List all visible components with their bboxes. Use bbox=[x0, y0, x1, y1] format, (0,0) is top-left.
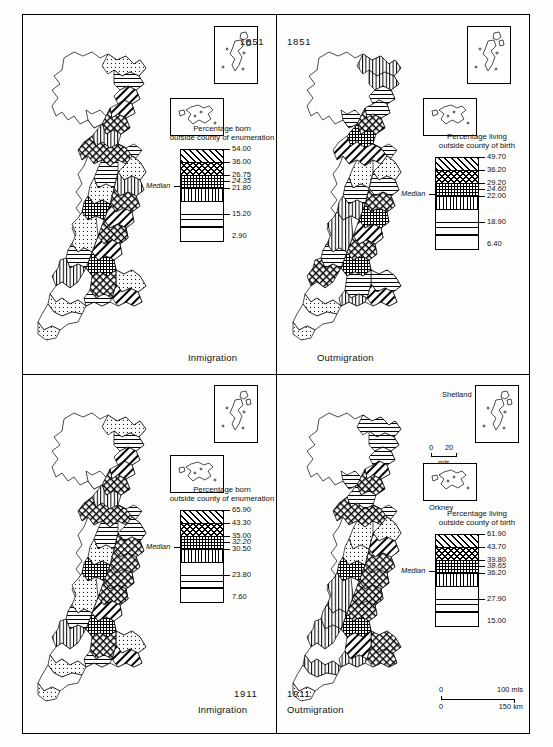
inset-orkney-tr bbox=[423, 98, 477, 136]
legend-bl: Percentage born outside county of enumer… bbox=[168, 485, 276, 602]
shetland-outline-tr bbox=[468, 27, 510, 83]
panel-caption-bl: Inmigration bbox=[198, 704, 247, 715]
legend-br: Percentage living outside county of birt… bbox=[423, 509, 531, 626]
legend-swatches-bl bbox=[180, 510, 224, 603]
legend-value-br-5: 27.90 bbox=[487, 594, 506, 603]
main-scale-miles-zero: 0 bbox=[439, 685, 443, 694]
legend-swatch-dotted-br bbox=[436, 613, 478, 626]
main-scale-miles-max: 100 mls bbox=[497, 685, 523, 694]
legend-median-label-tl: Median bbox=[146, 181, 170, 190]
shetland-outline-br bbox=[476, 386, 518, 442]
inset-scale-twenty: 20 bbox=[445, 443, 453, 452]
legend-swatch-diagonal-hatch-tl bbox=[181, 150, 223, 163]
legend-swatch-horizontal-hatch-br bbox=[436, 600, 478, 613]
legend-swatch-grid-hatch-tl bbox=[181, 176, 223, 189]
legend-value-tr-6: 6.40 bbox=[487, 239, 502, 248]
legend-swatch-dotted-tl bbox=[181, 228, 223, 241]
main-scale-bar: 0 100 mls 0 150 km bbox=[439, 685, 531, 729]
legend-swatch-checker-hatch-tr bbox=[436, 171, 478, 184]
legend-title-tr: Percentage living outside county of birt… bbox=[423, 132, 531, 151]
legend-tr: Percentage living outside county of birt… bbox=[423, 132, 531, 249]
panel-top-right-outmigration-1851: 1851 Percentage living outside county of… bbox=[277, 14, 531, 374]
legend-value-tr-0: 49.70 bbox=[487, 152, 506, 161]
panel-caption-br: Outmigration bbox=[287, 704, 344, 715]
legend-title-line2-tr: outside county of birth bbox=[423, 141, 531, 150]
legend-swatch-checker-hatch-br bbox=[436, 548, 478, 561]
legend-title-line2-bl: outside county of enumeration bbox=[168, 494, 276, 503]
legend-value-tl-1: 36.00 bbox=[232, 157, 251, 166]
inset-shetland-tl bbox=[214, 26, 258, 84]
legend-swatch-blank-tl bbox=[181, 202, 223, 215]
panel-year-br: 1911 bbox=[287, 688, 311, 699]
legend-value-tr-1: 36.20 bbox=[487, 165, 506, 174]
inset-shetland-br bbox=[475, 385, 519, 443]
legend-title-line1-bl: Percentage born bbox=[193, 485, 251, 494]
legend-swatch-diagonal-hatch-tr bbox=[436, 158, 478, 171]
legend-swatch-diagonal-hatch-bl bbox=[181, 511, 223, 524]
legend-median-label-bl: Median bbox=[146, 542, 170, 551]
panel-year-tl: 1851 bbox=[240, 36, 264, 47]
panel-caption-tr: Outmigration bbox=[317, 352, 374, 363]
legend-title-line1-tl: Percentage born bbox=[193, 124, 251, 133]
legend-value-tl-5: 15.20 bbox=[232, 209, 251, 218]
shetland-label: Shetland bbox=[442, 390, 472, 399]
legend-value-tl-4: 21.80 bbox=[232, 183, 251, 192]
legend-swatch-checker-hatch-tl bbox=[181, 163, 223, 176]
legend-swatch-diagonal-hatch-br bbox=[436, 535, 478, 548]
legend-median-label-tr: Median bbox=[401, 189, 425, 198]
legend-value-bl-5: 23.80 bbox=[232, 570, 251, 579]
legend-swatch-vertical-hatch-tr bbox=[436, 197, 478, 210]
legend-swatch-grid-hatch-bl bbox=[181, 537, 223, 550]
migration-map-figure: 1851 Percentage born outside county of e… bbox=[0, 0, 553, 747]
legend-value-tr-4: 22.00 bbox=[487, 191, 506, 200]
legend-swatches-tr bbox=[435, 157, 479, 250]
legend-swatch-grid-hatch-br bbox=[436, 561, 478, 574]
orkney-outline-br bbox=[424, 464, 476, 500]
legend-swatches-br bbox=[435, 534, 479, 627]
legend-median-label-br: Median bbox=[401, 566, 425, 575]
legend-value-br-0: 61.90 bbox=[487, 529, 506, 538]
legend-title-bl: Percentage born outside county of enumer… bbox=[168, 485, 276, 504]
legend-title-line1-br: Percentage living bbox=[447, 509, 507, 518]
legend-value-tl-0: 54.00 bbox=[232, 144, 251, 153]
legend-swatch-dotted-tr bbox=[436, 236, 478, 249]
legend-title-line2-tl: outside county of enumeration bbox=[168, 133, 276, 142]
panel-bottom-right-outmigration-1911: Shetland 0 20 mls bbox=[277, 375, 531, 735]
shetland-outline-bl bbox=[215, 386, 257, 442]
legend-value-bl-6: 7.60 bbox=[232, 592, 247, 601]
inset-shetland-bl bbox=[214, 385, 258, 443]
panel-bottom-left-inmigration-1911: Percentage born outside county of enumer… bbox=[22, 375, 276, 735]
panel-year-bl: 1911 bbox=[234, 688, 258, 699]
panel-caption-tl: Inmigration bbox=[188, 352, 237, 363]
inset-shetland-tr bbox=[467, 26, 511, 84]
legend-swatch-dotted-bl bbox=[181, 589, 223, 602]
legend-title-line2-br: outside county of birth bbox=[423, 518, 531, 527]
legend-swatch-blank-tr bbox=[436, 210, 478, 223]
panel-year-tr: 1851 bbox=[287, 36, 311, 47]
legend-swatches-tl bbox=[180, 149, 224, 242]
legend-value-br-6: 15.00 bbox=[487, 616, 506, 625]
legend-title-tl: Percentage born outside county of enumer… bbox=[168, 124, 276, 143]
orkney-outline-tr bbox=[424, 99, 476, 135]
legend-swatch-blank-br bbox=[436, 587, 478, 600]
main-scale-km-zero: 0 bbox=[439, 702, 443, 711]
legend-title-line1-tr: Percentage living bbox=[447, 132, 507, 141]
legend-value-tr-5: 18.90 bbox=[487, 217, 506, 226]
main-scale-km-max: 150 km bbox=[499, 702, 523, 711]
legend-value-bl-0: 65.90 bbox=[232, 505, 251, 514]
legend-swatch-checker-hatch-bl bbox=[181, 524, 223, 537]
legend-value-tl-6: 2.90 bbox=[232, 231, 247, 240]
legend-swatch-vertical-hatch-tl bbox=[181, 189, 223, 202]
legend-tl: Percentage born outside county of enumer… bbox=[168, 124, 276, 241]
inset-orkney-br bbox=[423, 463, 477, 501]
inset-scale-zero: 0 bbox=[429, 443, 433, 452]
legend-swatch-vertical-hatch-bl bbox=[181, 550, 223, 563]
panel-top-left-inmigration-1851: 1851 Percentage born outside county of e… bbox=[22, 14, 276, 374]
legend-swatch-grid-hatch-tr bbox=[436, 184, 478, 197]
legend-swatch-blank-bl bbox=[181, 563, 223, 576]
legend-swatch-horizontal-hatch-tl bbox=[181, 215, 223, 228]
legend-value-bl-1: 43.30 bbox=[232, 518, 251, 527]
legend-swatch-vertical-hatch-br bbox=[436, 574, 478, 587]
legend-title-br: Percentage living outside county of birt… bbox=[423, 509, 531, 528]
legend-value-br-1: 43.70 bbox=[487, 542, 506, 551]
